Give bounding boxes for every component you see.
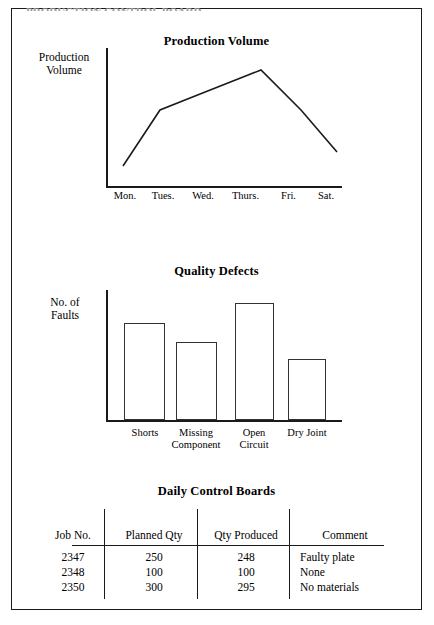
cell-job-no: 2350 xyxy=(38,580,108,595)
line-chart-category-fri: Fri. xyxy=(270,190,307,202)
bar-chart-y-axis-label: No. of Faults xyxy=(30,296,100,322)
bar-chart-title: Quality Defects xyxy=(12,264,421,279)
cell-qty-produced: 100 xyxy=(200,565,292,580)
table-header-planned-qty: Planned Qty xyxy=(108,528,200,543)
line-chart-series xyxy=(12,9,423,209)
table-header-qty-produced: Qty Produced xyxy=(200,528,292,543)
figure-frame: PRODUCTION CONTROL BOARD Production Volu… xyxy=(11,8,422,610)
line-chart-category-wed: Wed. xyxy=(182,190,224,202)
cell-planned-qty: 100 xyxy=(108,565,200,580)
cell-comment: Faulty plate xyxy=(292,550,398,565)
bar-chart-category-missing-component: Missing Component xyxy=(162,427,230,450)
cell-job-no: 2348 xyxy=(38,565,108,580)
bar-chart-category-dry-joint: Dry Joint xyxy=(284,427,330,439)
table-header-job-no: Job No. xyxy=(38,528,108,543)
spacer-cell xyxy=(38,543,398,550)
line-chart-category-tues: Tues. xyxy=(142,190,184,202)
line-chart-category-thurs: Thurs. xyxy=(222,190,269,202)
bar-shorts xyxy=(124,323,165,420)
cell-job-no: 2347 xyxy=(38,550,108,565)
cell-comment: None xyxy=(292,565,398,580)
bar-chart-y-axis xyxy=(106,290,108,421)
bar-missing-component xyxy=(176,342,217,420)
cell-qty-produced: 295 xyxy=(200,580,292,595)
line-chart-category-sat: Sat. xyxy=(306,190,346,202)
bar-chart-category-open-circuit: Open Circuit xyxy=(229,427,279,450)
table-row: 2348 100 100 None xyxy=(38,565,398,580)
bar-open-circuit xyxy=(235,303,274,420)
production-volume-line xyxy=(123,70,337,166)
cell-planned-qty: 300 xyxy=(108,580,200,595)
table-row: 2347 250 248 Faulty plate xyxy=(38,550,398,565)
cell-comment: No materials xyxy=(292,580,398,595)
table-title: Daily Control Boards xyxy=(12,484,421,499)
cell-planned-qty: 250 xyxy=(108,550,200,565)
bar-dry-joint xyxy=(288,359,326,420)
cell-qty-produced: 248 xyxy=(200,550,292,565)
table-row: 2350 300 295 No materials xyxy=(38,580,398,595)
line-chart-category-mon: Mon. xyxy=(104,190,146,202)
table-header-row: Job No. Planned Qty Qty Produced Comment xyxy=(38,528,398,543)
table-header-spacer xyxy=(38,543,398,550)
daily-control-boards-table: Job No. Planned Qty Qty Produced Comment… xyxy=(38,528,398,595)
table-header-comment: Comment xyxy=(292,528,398,543)
bar-chart-x-axis xyxy=(106,420,342,422)
